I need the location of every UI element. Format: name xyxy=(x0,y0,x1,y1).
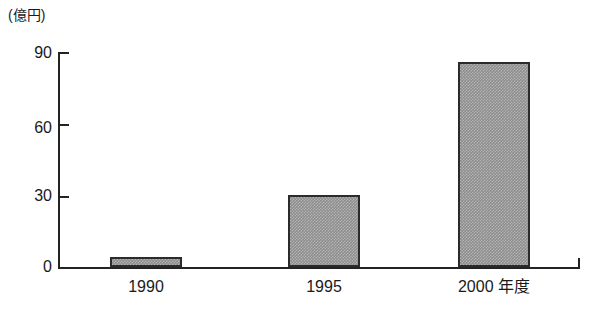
x-tick-label-2000: 2000 年度 xyxy=(419,278,569,296)
x-tick-label-1990: 1990 xyxy=(71,278,221,296)
x-axis-end-cap xyxy=(578,258,580,269)
y-tick-mark-60 xyxy=(60,124,69,126)
y-tick-mark-30 xyxy=(60,196,69,198)
bar-1995 xyxy=(288,195,360,267)
x-axis-line xyxy=(58,267,580,269)
y-tick-label-90: 90 xyxy=(6,45,52,61)
y-axis-top-cap xyxy=(58,52,69,54)
y-tick-label-0: 0 xyxy=(6,259,52,275)
y-axis-unit-label: (億円) xyxy=(8,4,45,24)
bar-2000 xyxy=(458,62,530,267)
y-tick-label-60: 60 xyxy=(6,120,52,136)
plot-area xyxy=(58,52,580,268)
y-axis-line xyxy=(58,52,60,269)
y-tick-label-30: 30 xyxy=(6,188,52,204)
bar-1990 xyxy=(110,257,182,267)
bar-chart-figure: (億円) 90 60 30 0 1990 1995 2000 年度 xyxy=(0,0,596,322)
x-tick-label-1995: 1995 xyxy=(249,278,399,296)
